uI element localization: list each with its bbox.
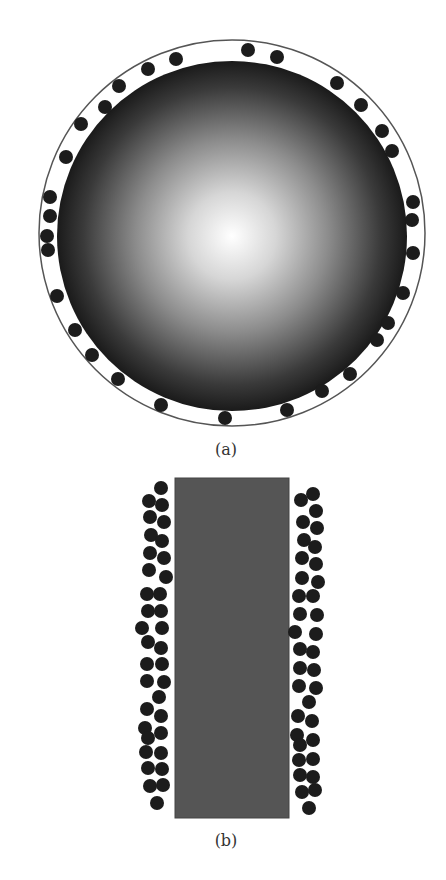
particle-dot: [343, 367, 357, 381]
particle-dot: [157, 675, 171, 689]
panel-label-b: (b): [215, 831, 238, 850]
particle-dot: [293, 768, 307, 782]
particle-dot: [406, 195, 420, 209]
particle-dot: [154, 604, 168, 618]
central-sphere: [57, 61, 407, 411]
particle-dot: [241, 43, 255, 57]
particle-dot: [375, 124, 389, 138]
particle-dot: [155, 498, 169, 512]
particle-dot: [41, 243, 55, 257]
particle-dot: [293, 661, 307, 675]
particle-dot: [141, 731, 155, 745]
particle-dot: [43, 209, 57, 223]
particle-dot: [140, 587, 154, 601]
particle-dot: [112, 79, 126, 93]
particle-dot: [154, 641, 168, 655]
particle-dot: [155, 762, 169, 776]
particle-dot: [40, 229, 54, 243]
particle-dot: [293, 642, 307, 656]
particle-dot: [295, 571, 309, 585]
particle-dot: [143, 510, 157, 524]
particle-dot: [140, 674, 154, 688]
particle-dot: [154, 746, 168, 760]
panel-label-a: (a): [215, 440, 237, 459]
particle-dot: [157, 551, 171, 565]
particle-dot: [154, 481, 168, 495]
particle-dot: [143, 779, 157, 793]
particle-dot: [59, 150, 73, 164]
particle-dot: [154, 398, 168, 412]
particle-dot: [141, 761, 155, 775]
particle-dot: [142, 563, 156, 577]
particle-dot: [141, 62, 155, 76]
figure-canvas: (a) (b): [0, 0, 446, 880]
particle-dot: [152, 690, 166, 704]
particle-dot: [396, 286, 410, 300]
particle-dot: [370, 333, 384, 347]
particle-dot: [315, 384, 329, 398]
particle-dot: [135, 621, 149, 635]
particle-dot: [308, 540, 322, 554]
particle-dot: [157, 515, 171, 529]
particle-dot: [306, 733, 320, 747]
particle-dot: [306, 589, 320, 603]
particle-dot: [308, 783, 322, 797]
particle-dot: [295, 785, 309, 799]
particle-dot: [306, 645, 320, 659]
particle-dot: [150, 796, 164, 810]
particle-dot: [140, 702, 154, 716]
particle-dot: [309, 557, 323, 571]
particle-dot: [169, 52, 183, 66]
particle-dot: [381, 316, 395, 330]
particle-dot: [291, 709, 305, 723]
particle-dot: [111, 372, 125, 386]
particle-dot: [305, 714, 319, 728]
particle-dot: [302, 695, 316, 709]
central-rectangle-body: [175, 478, 289, 818]
particle-dot: [50, 289, 64, 303]
particle-dot: [156, 778, 170, 792]
particle-dot: [74, 117, 88, 131]
particle-dot: [141, 604, 155, 618]
particle-dot: [309, 681, 323, 695]
particle-dot: [306, 770, 320, 784]
particle-dot: [85, 348, 99, 362]
particle-dot: [155, 657, 169, 671]
particle-dot: [295, 551, 309, 565]
particle-dot: [405, 213, 419, 227]
particle-dot: [306, 487, 320, 501]
particle-dot: [293, 607, 307, 621]
particle-dot: [385, 144, 399, 158]
panel-b: (b): [135, 478, 325, 850]
particle-dot: [292, 679, 306, 693]
particle-dot: [302, 801, 316, 815]
particle-dot: [270, 50, 284, 64]
particle-dot: [309, 627, 323, 641]
particle-dot: [307, 663, 321, 677]
particle-dot: [311, 575, 325, 589]
particle-dot: [141, 635, 155, 649]
particle-dot: [159, 570, 173, 584]
particle-dot: [406, 246, 420, 260]
particle-dot: [218, 411, 232, 425]
particle-dot: [292, 753, 306, 767]
particle-dot: [43, 190, 57, 204]
particle-dot: [310, 608, 324, 622]
particle-dot: [306, 752, 320, 766]
particle-dot: [153, 587, 167, 601]
particle-dot: [68, 323, 82, 337]
particle-dot: [310, 521, 324, 535]
particle-dot: [154, 709, 168, 723]
particle-dot: [293, 738, 307, 752]
particle-dot: [330, 76, 344, 90]
particle-dot: [292, 589, 306, 603]
particle-dot: [309, 504, 323, 518]
adsorbed-particles-left: [135, 481, 173, 810]
particle-dot: [288, 625, 302, 639]
particle-dot: [155, 534, 169, 548]
particle-dot: [98, 100, 112, 114]
particle-dot: [155, 621, 169, 635]
particle-dot: [294, 493, 308, 507]
adsorbed-particles-right: [288, 487, 325, 815]
particle-dot: [154, 726, 168, 740]
